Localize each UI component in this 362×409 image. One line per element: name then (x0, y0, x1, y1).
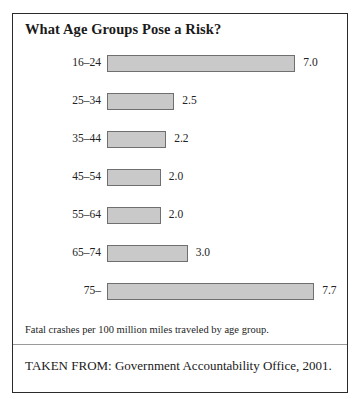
bar-row: 75–7.7 (13, 280, 347, 306)
bar-category-label: 65–74 (13, 246, 101, 258)
source-attribution: TAKEN FROM: Government Accountability Of… (25, 358, 332, 374)
bar (107, 207, 161, 224)
bar (107, 131, 166, 148)
bar-category-label: 25–34 (13, 94, 101, 106)
bar-row: 25–342.5 (13, 90, 347, 116)
bar-row: 65–743.0 (13, 242, 347, 268)
bar-chart-plot-area: 16–247.025–342.535–442.245–542.055–642.0… (13, 52, 347, 315)
bar-value-label: 2.5 (182, 94, 196, 106)
bar-category-label: 75– (13, 284, 101, 296)
page-title: What Age Groups Pose a Risk? (25, 21, 221, 38)
bar-row: 55–642.0 (13, 204, 347, 230)
bar (107, 55, 295, 72)
bar (107, 283, 314, 300)
footer-divider (13, 344, 347, 345)
bar-category-label: 45–54 (13, 170, 101, 182)
figure-frame: What Age Groups Pose a Risk? 16–247.025–… (12, 13, 348, 393)
bar-row: 35–442.2 (13, 128, 347, 154)
bar-value-label: 7.0 (303, 56, 317, 68)
bar-row: 45–542.0 (13, 166, 347, 192)
bar-value-label: 2.0 (169, 170, 183, 182)
bar-category-label: 35–44 (13, 132, 101, 144)
bar-value-label: 3.0 (196, 246, 210, 258)
bar-category-label: 16–24 (13, 56, 101, 68)
chart-footnote: Fatal crashes per 100 million miles trav… (25, 324, 269, 335)
bar-value-label: 7.7 (322, 284, 336, 296)
bar-value-label: 2.2 (174, 132, 188, 144)
bar-value-label: 2.0 (169, 208, 183, 220)
bar (107, 93, 174, 110)
bar (107, 245, 188, 262)
bar-row: 16–247.0 (13, 52, 347, 78)
bar (107, 169, 161, 186)
bar-category-label: 55–64 (13, 208, 101, 220)
